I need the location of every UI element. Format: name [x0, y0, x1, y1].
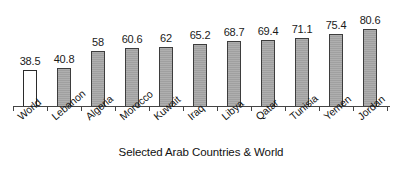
- x-axis-tick: [115, 107, 116, 111]
- bar-group: 80.6: [353, 0, 387, 107]
- x-axis-tick: [387, 107, 388, 111]
- x-axis-title: Selected Arab Countries & World: [0, 146, 402, 158]
- bar-group: 69.4: [251, 0, 285, 107]
- x-axis-tick: [217, 107, 218, 111]
- x-axis-category-labels: WorldLebanonAlgeriaMoroccoKuwaitIraqLiby…: [0, 107, 402, 147]
- x-axis-tick: [319, 107, 320, 111]
- bar-value-label: 65.2: [183, 29, 217, 41]
- bar[interactable]: [193, 44, 207, 107]
- bar-value-label: 60.6: [115, 33, 149, 45]
- bar-group: 75.4: [319, 0, 353, 107]
- bar-value-label: 71.1: [285, 23, 319, 35]
- bar-value-label: 69.4: [251, 25, 285, 37]
- x-axis-tick: [13, 107, 14, 111]
- bar-value-label: 58: [81, 36, 115, 48]
- bar-value-label: 80.6: [353, 14, 387, 26]
- bar-value-label: 75.4: [319, 19, 353, 31]
- bar-value-label: 62: [149, 32, 183, 44]
- bar-group: 65.2: [183, 0, 217, 107]
- x-axis-tick: [251, 107, 252, 111]
- bar-value-label: 68.7: [217, 26, 251, 38]
- x-axis-tick: [149, 107, 150, 111]
- x-axis-tick: [183, 107, 184, 111]
- bar-value-label: 40.8: [47, 53, 81, 65]
- bar-group: 58: [81, 0, 115, 107]
- x-axis-tick: [81, 107, 82, 111]
- x-axis-tick: [285, 107, 286, 111]
- x-axis-tick: [47, 107, 48, 111]
- bar-chart: 38.540.85860.66265.268.769.471.175.480.6…: [0, 0, 402, 169]
- bar-group: 62: [149, 0, 183, 107]
- bar-group: 38.5: [13, 0, 47, 107]
- plot-area: 38.540.85860.66265.268.769.471.175.480.6: [0, 0, 402, 107]
- bar-group: 71.1: [285, 0, 319, 107]
- bar-value-label: 38.5: [13, 55, 47, 67]
- bar-group: 68.7: [217, 0, 251, 107]
- x-axis-tick: [353, 107, 354, 111]
